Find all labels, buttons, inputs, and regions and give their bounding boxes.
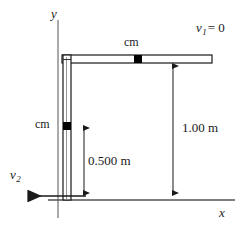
physics-diagram-canvas: y x cm cm 0.500 m 1.00 m v1= 0 v2	[0, 0, 247, 231]
cm-label-horizontal-rod: cm	[124, 36, 139, 48]
y-axis-label: y	[51, 7, 57, 20]
dimension-label-0500m: 0.500 m	[88, 154, 131, 167]
cm-label-vertical-rod: cm	[35, 118, 50, 130]
velocity-v2-symbol: v	[10, 167, 16, 182]
cm-marker-vertical	[63, 122, 71, 130]
velocity-v1-symbol: v	[196, 20, 202, 35]
cm-marker-horizontal	[134, 55, 142, 63]
x-axis-label: x	[219, 206, 225, 219]
velocity-label-v2: v2	[10, 168, 21, 184]
dimension-label-100m: 1.00 m	[182, 121, 218, 134]
velocity-label-v1: v1= 0	[196, 21, 225, 37]
velocity-v2-subscript: 2	[16, 174, 21, 184]
velocity-v1-relation: = 0	[207, 20, 225, 35]
